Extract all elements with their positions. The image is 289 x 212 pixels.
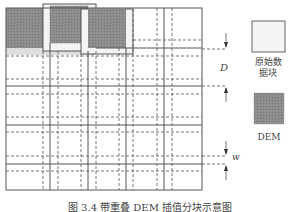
legend-label-dem: DEM — [249, 132, 289, 142]
dimension-label-w: w — [232, 152, 240, 162]
dem-block-3 — [88, 9, 126, 48]
tiling-diagram — [0, 0, 289, 212]
dimension-label-d: D — [220, 62, 228, 73]
legend-swatch-original — [252, 21, 285, 52]
grid-area — [6, 4, 202, 190]
dem-block-1 — [6, 8, 43, 48]
dimension-w — [202, 141, 228, 180]
dashed-horizontal-lines — [6, 40, 202, 171]
legend-label-original-line2: 据块 — [248, 68, 288, 78]
figure-caption: 图 3.4 带重叠 DEM 插值分块示意图 — [40, 199, 260, 212]
legend-swatch-dem — [254, 93, 284, 124]
legend-label-original-line1: 原始数 — [248, 57, 288, 67]
solid-horizontal-lines — [6, 48, 202, 164]
